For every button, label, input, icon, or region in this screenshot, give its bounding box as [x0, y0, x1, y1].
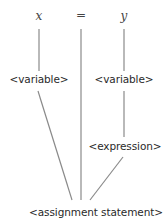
node-assignment-statement: <assignment statement>: [29, 207, 163, 218]
edges-layer: [0, 0, 167, 223]
parse-tree-diagram: x = y <variable> <variable> <expression>…: [0, 0, 167, 223]
node-expression: <expression>: [88, 141, 161, 152]
token-x: x: [36, 10, 43, 22]
edge-expression-to-assignment: [90, 157, 123, 200]
edge-variable-to-assignment: [38, 91, 72, 200]
node-variable-right: <variable>: [95, 74, 154, 85]
token-y: y: [121, 10, 128, 22]
node-variable-left: <variable>: [10, 74, 69, 85]
token-equals: =: [76, 9, 86, 21]
